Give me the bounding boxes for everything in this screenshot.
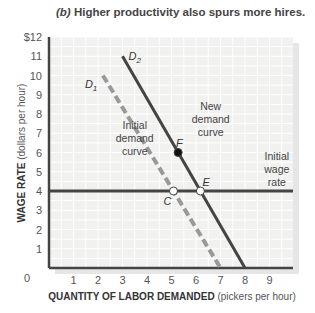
y-tick-label: 5 [36, 166, 42, 178]
y-tick-label: 8 [36, 108, 42, 120]
x-axis-label: QUANTITY OF LABOR DEMANDED (pickers per … [48, 291, 296, 302]
x-tick-label: 9 [266, 274, 272, 286]
y-tick-label: 0 [24, 272, 30, 284]
y-tick-label: 11 [31, 50, 42, 62]
y-tick-label: $12 [24, 31, 42, 43]
point-e [196, 187, 204, 195]
y-tick-label: 6 [36, 147, 42, 159]
y-tick-label: 9 [36, 89, 42, 101]
y-tick-label: 4 [36, 185, 42, 197]
y-tick-label: 10 [30, 70, 42, 82]
point-label-e: E [202, 176, 210, 188]
x-tick-label: 8 [242, 274, 248, 286]
point-f [174, 149, 182, 157]
y-tick-label: 7 [36, 127, 42, 139]
y-tick-label: 1 [36, 243, 42, 255]
x-tick-label: 2 [95, 274, 101, 286]
x-tick-label: 6 [193, 274, 199, 286]
annotation-2: Initialwagerate [263, 150, 289, 188]
x-tick-label: 3 [119, 274, 125, 286]
y-axis-label: WAGE RATE (dollars per hour) [16, 84, 27, 223]
chart: 01234567891011$12123456789QUANTITY OF LA… [0, 0, 315, 313]
x-tick-label: 5 [168, 274, 174, 286]
x-tick-label: 4 [144, 274, 150, 286]
y-tick-label: 3 [36, 204, 42, 216]
point-label-c: C [163, 195, 171, 207]
x-tick-label: 7 [217, 274, 223, 286]
y-tick-label: 2 [36, 224, 42, 236]
x-tick-label: 1 [70, 274, 76, 286]
point-c [169, 187, 177, 195]
